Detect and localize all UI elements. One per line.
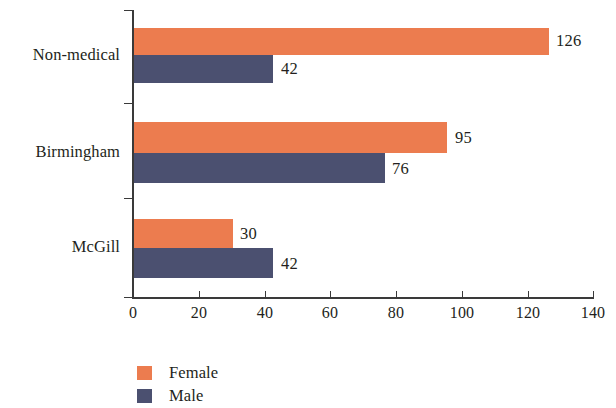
bar-value-non-medical-female: 126 — [556, 31, 581, 51]
y-axis-tick-1 — [124, 103, 133, 104]
legend-label-male: Male — [169, 386, 203, 406]
x-tick-label-100: 100 — [439, 303, 485, 323]
x-tick-mark-60 — [330, 291, 331, 298]
x-tick-label-140: 140 — [570, 303, 616, 323]
x-tick-mark-0 — [133, 291, 134, 298]
x-tick-label-120: 120 — [505, 303, 551, 323]
chart-legend: Female Male — [137, 361, 218, 407]
x-tick-label-20: 20 — [176, 303, 222, 323]
y-category-label-non-medical: Non-medical — [33, 45, 120, 65]
x-tick-mark-100 — [462, 291, 463, 298]
legend-swatch-female-icon — [137, 366, 152, 380]
bar-birmingham-male — [134, 153, 385, 183]
legend-item-male: Male — [137, 384, 218, 407]
bar-value-mcgill-male: 42 — [281, 254, 298, 274]
legend-item-female: Female — [137, 361, 218, 384]
x-tick-label-40: 40 — [242, 303, 288, 323]
bar-value-birmingham-male: 76 — [392, 159, 409, 179]
x-axis-line — [132, 297, 594, 299]
x-tick-mark-140 — [593, 291, 594, 298]
x-tick-label-60: 60 — [307, 303, 353, 323]
legend-swatch-male-icon — [137, 389, 152, 403]
bar-chart-plot-area: 0 20 40 60 80 100 120 140 Non-medical Bi… — [0, 0, 616, 408]
bar-non-medical-female — [134, 28, 549, 55]
x-tick-mark-120 — [528, 291, 529, 298]
legend-label-female: Female — [169, 363, 218, 383]
chart-page: 0 20 40 60 80 100 120 140 Non-medical Bi… — [0, 0, 616, 408]
x-tick-mark-40 — [265, 291, 266, 298]
y-axis-tick-2 — [124, 198, 133, 199]
x-tick-mark-20 — [199, 291, 200, 298]
bar-mcgill-male — [134, 248, 273, 278]
x-tick-label-0: 0 — [110, 303, 156, 323]
y-axis-tick-bottom — [124, 297, 133, 298]
y-category-label-birmingham: Birmingham — [36, 142, 120, 162]
x-tick-mark-80 — [396, 291, 397, 298]
bar-value-birmingham-female: 95 — [455, 128, 472, 148]
bar-non-medical-male — [134, 55, 273, 83]
bar-value-non-medical-male: 42 — [281, 59, 298, 79]
x-tick-label-80: 80 — [373, 303, 419, 323]
bar-value-mcgill-female: 30 — [240, 224, 257, 244]
bar-birmingham-female — [134, 122, 447, 153]
y-category-label-mcgill: McGill — [72, 237, 120, 257]
y-axis-tick-top — [124, 10, 133, 11]
bar-mcgill-female — [134, 219, 233, 248]
